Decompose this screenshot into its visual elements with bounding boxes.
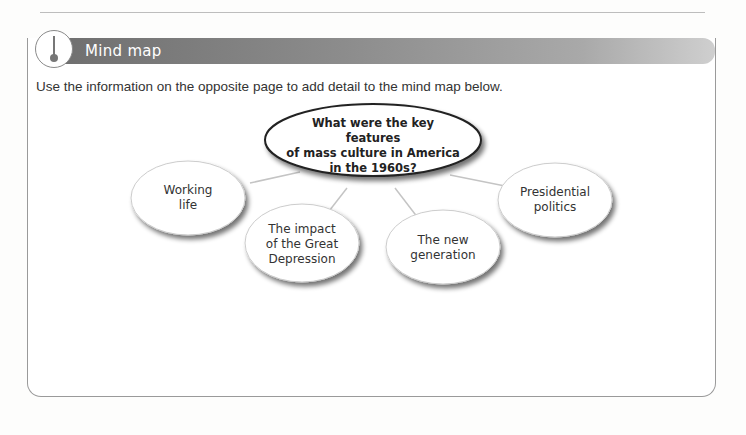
branch-line: Presidential (503, 185, 607, 200)
branch-working-life: Working life (138, 183, 238, 213)
branch-line: politics (503, 200, 607, 215)
branch-presidential-politics: Presidential politics (503, 185, 607, 215)
central-line-2: of mass culture in America (285, 146, 461, 161)
central-question: What were the key features of mass cultu… (285, 116, 461, 176)
branch-line: Depression (252, 252, 352, 267)
branch-line: Working (138, 183, 238, 198)
branch-new-generation: The new generation (393, 233, 493, 263)
branch-line: The impact (252, 222, 352, 237)
branch-great-depression: The impact of the Great Depression (252, 222, 352, 267)
branch-line: life (138, 198, 238, 213)
branch-line: of the Great (252, 237, 352, 252)
branch-line: The new (393, 233, 493, 248)
mind-map-diagram (0, 0, 746, 435)
central-line-3: in the 1960s? (285, 161, 461, 176)
branch-line: generation (393, 248, 493, 263)
central-line-1: What were the key features (285, 116, 461, 146)
